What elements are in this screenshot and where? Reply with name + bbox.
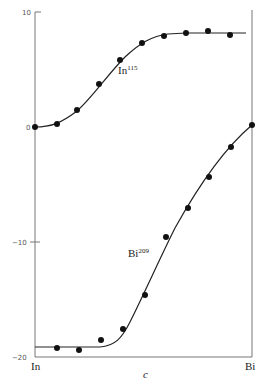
- bi209-fit-curve: [35, 125, 252, 347]
- x-label-in: In: [31, 360, 41, 372]
- in115-points: [32, 28, 233, 130]
- y-tick-label-0: 0: [26, 124, 30, 132]
- y-tick-label-minus10: −10: [12, 239, 27, 247]
- y-tick-label-10: 10: [22, 9, 31, 17]
- x-label-bi: Bi: [245, 360, 255, 372]
- y-tick-label-minus20: −20: [12, 354, 27, 362]
- bi209-label: Bi209: [128, 247, 149, 259]
- x-axis-title: c: [143, 368, 148, 380]
- in115-fit-curve: [35, 33, 246, 127]
- in115-label: In115: [118, 64, 138, 76]
- bi209-points: [54, 122, 255, 353]
- chart: 10 0 −10 −20 In Bi c In115 Bi209: [0, 0, 267, 385]
